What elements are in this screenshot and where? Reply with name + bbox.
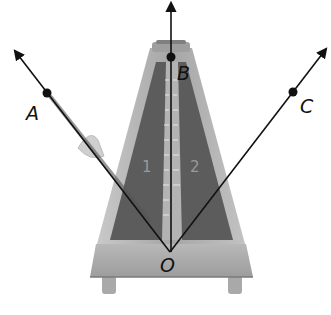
metronome-foot-right	[228, 276, 242, 294]
angle-label-2: 2	[190, 158, 200, 176]
point-B	[167, 53, 176, 62]
label-C: C	[300, 95, 314, 117]
label-O: O	[160, 254, 175, 276]
label-B: B	[177, 62, 190, 84]
metronome-angle-diagram: 1 2 A B C O	[0, 0, 331, 315]
point-A	[43, 89, 52, 98]
rays	[15, 3, 326, 252]
angle-label-1: 1	[142, 158, 152, 176]
metronome: 1 2	[50, 40, 253, 294]
label-A: A	[24, 102, 39, 124]
metronome-foot-left	[102, 276, 116, 294]
point-C	[289, 88, 298, 97]
